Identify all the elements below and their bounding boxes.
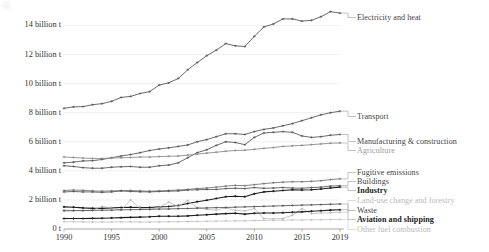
series-line-8 xyxy=(64,204,340,211)
y-tick-label-5: 10 billion t xyxy=(0,79,61,88)
series-label-agriculture[interactable]: Agriculture xyxy=(357,146,395,155)
x-tick-label-4: 2010 xyxy=(234,233,274,242)
y-tick-label-7: 14 billion t xyxy=(0,20,61,29)
y-tick-label-1: 2 billion t xyxy=(0,195,61,204)
label-leader-line-9 xyxy=(340,210,356,220)
series-label-manufacturing-construction[interactable]: Manufacturing & construction xyxy=(357,137,457,146)
x-tick-label-5: 2015 xyxy=(282,233,322,242)
x-tick-label-1: 1995 xyxy=(92,233,132,242)
label-leader-line-1 xyxy=(340,111,356,116)
label-leader-line-2 xyxy=(340,134,356,141)
series-line-3 xyxy=(64,143,340,159)
label-leader-line-4 xyxy=(340,173,356,179)
label-leader-line-10 xyxy=(340,219,356,229)
series-label-transport[interactable]: Transport xyxy=(357,112,389,121)
series-label-industry[interactable]: Industry xyxy=(357,186,388,195)
series-label-land-use-change-and-forestry[interactable]: Land-use change and forestry xyxy=(357,196,454,205)
series-line-2 xyxy=(64,132,340,169)
y-tick-label-3: 6 billion t xyxy=(0,137,61,146)
y-tick-label-2: 4 billion t xyxy=(0,166,61,175)
label-leader-line-0 xyxy=(340,13,356,17)
series-label-electricity-and-heat[interactable]: Electricity and heat xyxy=(357,13,421,22)
series-line-0 xyxy=(64,12,340,109)
x-tick-label-0: 1990 xyxy=(44,233,84,242)
y-tick-label-0: 0 t xyxy=(0,224,61,233)
y-tick-label-4: 8 billion t xyxy=(0,108,61,117)
label-leader-line-6 xyxy=(340,187,356,190)
series-label-buildings[interactable]: Buildings xyxy=(357,177,389,186)
x-tick-label-6: 2019 xyxy=(320,233,360,242)
emissions-by-sector-chart: 0 t2 billion t4 billion t6 billion t8 bi… xyxy=(0,0,489,252)
series-line-7 xyxy=(64,200,340,219)
y-tick-label-6: 12 billion t xyxy=(0,50,61,59)
series-label-waste[interactable]: Waste xyxy=(357,206,377,215)
series-line-10 xyxy=(64,219,340,222)
series-line-1 xyxy=(64,111,340,163)
label-leader-line-5 xyxy=(340,182,356,186)
x-tick-label-2: 2000 xyxy=(139,233,179,242)
x-tick-label-3: 2005 xyxy=(187,233,227,242)
series-label-other-fuel-combustion[interactable]: Other fuel combustion xyxy=(357,225,431,234)
series-label-fugitive-emissions[interactable]: Fugitive emissions xyxy=(357,168,419,177)
series-label-aviation-and-shipping[interactable]: Aviation and shipping xyxy=(357,215,434,224)
label-leader-line-3 xyxy=(340,143,356,151)
